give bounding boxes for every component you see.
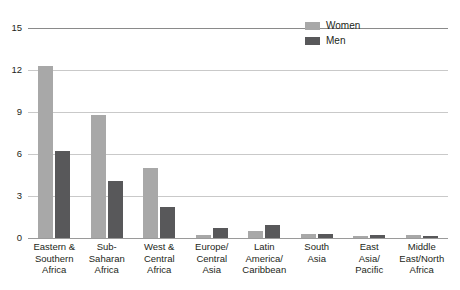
x-axis-label-line: Central bbox=[134, 253, 185, 265]
x-axis-label-line: Latin bbox=[239, 241, 290, 253]
y-tick-label-15: 15 bbox=[0, 23, 22, 33]
x-axis-label-line: Caribbean bbox=[239, 264, 290, 276]
x-axis-label: Eastern &SouthernAfrica bbox=[28, 241, 81, 289]
x-axis-label: Europe/CentralAsia bbox=[186, 241, 239, 289]
legend-label: Women bbox=[326, 21, 360, 31]
bar-women[interactable] bbox=[248, 231, 263, 238]
x-axis-label: Sub-SaharanAfrica bbox=[81, 241, 134, 289]
x-axis-label-line: Sub- bbox=[82, 241, 133, 253]
x-axis-label-line: East bbox=[344, 241, 395, 253]
x-axis-label-line: Africa bbox=[134, 264, 185, 276]
bar-women[interactable] bbox=[38, 66, 53, 238]
x-axis-label-line: Asia/ bbox=[344, 253, 395, 265]
legend-swatch-icon bbox=[305, 22, 320, 30]
legend-item-men[interactable]: Men bbox=[305, 33, 360, 48]
bar-women[interactable] bbox=[301, 234, 316, 238]
y-tick-label-12: 12 bbox=[0, 65, 22, 75]
x-axis-label-line: Middle bbox=[397, 241, 448, 253]
bar-chart: 15 12 9 6 3 0 Eastern &SouthernAfricaSub… bbox=[0, 0, 460, 290]
x-axis-label: MiddleEast/NorthAfrica bbox=[396, 241, 449, 289]
x-axis-label-line: Saharan bbox=[82, 253, 133, 265]
x-axis-label-line: South bbox=[292, 241, 343, 253]
x-axis-labels: Eastern &SouthernAfricaSub-SaharanAfrica… bbox=[28, 241, 448, 289]
legend-item-women[interactable]: Women bbox=[305, 18, 360, 33]
bar-men[interactable] bbox=[213, 228, 228, 238]
x-axis-label-line: Europe/ bbox=[187, 241, 238, 253]
x-axis-label-line: Asia bbox=[187, 264, 238, 276]
bar-men[interactable] bbox=[423, 236, 438, 238]
legend-label: Men bbox=[326, 36, 345, 46]
x-axis-label: West &CentralAfrica bbox=[133, 241, 186, 289]
bar-group bbox=[186, 28, 239, 238]
bar-men[interactable] bbox=[370, 235, 385, 238]
bar-men[interactable] bbox=[265, 225, 280, 238]
x-axis-label: SouthAsia bbox=[291, 241, 344, 289]
x-axis-label-line: East/North bbox=[397, 253, 448, 265]
bar-groups bbox=[28, 28, 448, 238]
x-axis-label-line: Africa bbox=[82, 264, 133, 276]
y-tick-label-3: 3 bbox=[0, 191, 22, 201]
bar-women[interactable] bbox=[406, 235, 421, 239]
x-axis-label-line: Africa bbox=[397, 264, 448, 276]
x-axis-label-line: Africa bbox=[29, 264, 80, 276]
x-axis-label-line: Asia bbox=[292, 253, 343, 265]
x-axis-label-line: America/ bbox=[239, 253, 290, 265]
x-axis-label-line: West & bbox=[134, 241, 185, 253]
bar-men[interactable] bbox=[160, 207, 175, 238]
bar-group bbox=[133, 28, 186, 238]
chart-legend: WomenMen bbox=[305, 18, 360, 48]
y-axis: 15 12 9 6 3 0 bbox=[0, 28, 28, 238]
bar-group bbox=[396, 28, 449, 238]
bar-group bbox=[238, 28, 291, 238]
bar-men[interactable] bbox=[318, 234, 333, 238]
x-axis-label-line: Southern bbox=[29, 253, 80, 265]
x-axis-label-line: Eastern & bbox=[29, 241, 80, 253]
bar-men[interactable] bbox=[55, 151, 70, 238]
legend-swatch-icon bbox=[305, 37, 320, 45]
y-tick-label-6: 6 bbox=[0, 149, 22, 159]
bar-group bbox=[28, 28, 81, 238]
bar-women[interactable] bbox=[143, 168, 158, 238]
bar-women[interactable] bbox=[196, 235, 211, 238]
x-axis-label: LatinAmerica/Caribbean bbox=[238, 241, 291, 289]
bar-women[interactable] bbox=[91, 115, 106, 238]
gridline-0-baseline bbox=[28, 238, 448, 239]
y-tick-label-0: 0 bbox=[0, 233, 22, 243]
x-axis-label: EastAsia/Pacific bbox=[343, 241, 396, 289]
bar-group bbox=[81, 28, 134, 238]
y-tick-label-9: 9 bbox=[0, 107, 22, 117]
bar-men[interactable] bbox=[108, 181, 123, 238]
plot-area bbox=[28, 28, 448, 238]
x-axis-label-line: Central bbox=[187, 253, 238, 265]
bar-group bbox=[343, 28, 396, 238]
bar-women[interactable] bbox=[353, 236, 368, 238]
x-axis-label-line: Pacific bbox=[344, 264, 395, 276]
bar-group bbox=[291, 28, 344, 238]
